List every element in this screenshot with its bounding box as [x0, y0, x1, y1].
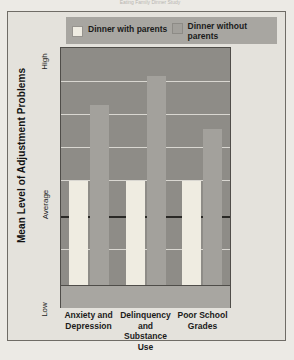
bar-dinner-with-parents-poor-school-grades	[182, 181, 201, 285]
legend-item-without-parents: Dinner without parents	[172, 21, 272, 41]
y-axis-title: Mean Level of Adjustment Problems	[16, 61, 27, 251]
x-axis-label-delinquency: Delinquency and Substance Use	[117, 310, 174, 336]
bar-dinner-without-parents-poor-school-grades	[203, 129, 222, 285]
bar-dinner-with-parents-delinquency-and-substance-use	[126, 181, 145, 285]
plot-baseline-band	[60, 286, 231, 308]
y-axis-tick-average: Average	[41, 178, 50, 232]
legend-label-without-parents: Dinner without parents	[188, 21, 272, 41]
legend-item-with-parents: Dinner with parents	[72, 24, 172, 37]
legend-swatch-without-parents	[172, 23, 183, 34]
y-axis-tick-high: High	[40, 42, 49, 82]
figure-caption: Eating Family Dinner Study	[60, 0, 240, 7]
x-axis-label-anxiety: Anxiety and Depression	[60, 310, 117, 336]
chart-legend: Dinner with parents Dinner without paren…	[66, 17, 277, 44]
bar-dinner-with-parents-anxiety-and-depression	[69, 181, 88, 285]
gridline	[61, 81, 230, 82]
figure-page: Eating Family Dinner Study Dinner with p…	[0, 0, 294, 360]
bar-dinner-without-parents-anxiety-and-depression	[90, 105, 109, 285]
x-axis-labels: Anxiety and Depression Delinquency and S…	[60, 310, 231, 336]
x-axis-label-grades: Poor School Grades	[174, 310, 231, 336]
bar-dinner-without-parents-delinquency-and-substance-use	[147, 76, 166, 285]
legend-swatch-with-parents	[72, 26, 83, 37]
legend-label-with-parents: Dinner with parents	[88, 24, 167, 34]
plot-area	[60, 47, 231, 286]
y-axis-tick-low: Low	[40, 293, 49, 327]
gridline	[61, 114, 230, 115]
